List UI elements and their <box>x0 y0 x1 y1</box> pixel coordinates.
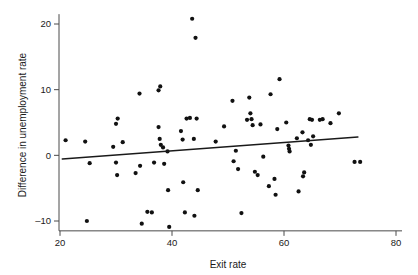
data-point <box>295 136 299 140</box>
data-point <box>183 210 187 214</box>
x-tick-label: 40 <box>167 237 178 248</box>
data-point <box>328 121 332 125</box>
data-point <box>138 164 142 168</box>
data-point <box>111 145 115 149</box>
data-point <box>190 17 194 21</box>
data-point <box>321 117 325 121</box>
data-point <box>301 174 305 178</box>
data-point <box>193 36 197 40</box>
data-point <box>284 120 288 124</box>
data-point <box>310 118 314 122</box>
y-tick-label: 10 <box>40 84 51 95</box>
plot-canvas: 20100–10 20406080 Exit rate Difference i… <box>0 0 418 275</box>
data-point <box>114 122 118 126</box>
data-point <box>236 167 240 171</box>
data-point <box>192 137 196 141</box>
data-point <box>239 211 243 215</box>
data-point <box>251 123 255 127</box>
data-point <box>156 88 160 92</box>
y-tick-label-group: 20100–10 <box>35 18 51 226</box>
y-tick-label: –10 <box>35 215 51 226</box>
data-point <box>267 184 271 188</box>
data-point <box>358 160 362 164</box>
regression-fit-line <box>62 137 358 159</box>
data-point <box>274 193 278 197</box>
data-point <box>253 170 257 174</box>
data-point <box>137 92 141 96</box>
data-point <box>309 143 313 147</box>
data-point <box>140 222 144 226</box>
data-point <box>288 149 292 153</box>
data-point <box>121 140 125 144</box>
data-point <box>88 161 92 165</box>
data-point <box>158 137 162 141</box>
data-point <box>152 160 156 164</box>
data-point <box>245 118 249 122</box>
data-point <box>302 170 306 174</box>
data-point <box>222 124 226 128</box>
data-point <box>195 116 199 120</box>
x-tick-label-group: 20406080 <box>55 237 402 248</box>
x-axis-title: Exit rate <box>210 259 247 270</box>
data-point <box>158 84 162 88</box>
tick-mark-group <box>54 24 396 236</box>
data-point <box>162 162 166 166</box>
y-axis-title: Difference in unemployment rate <box>17 52 28 197</box>
data-point <box>181 137 185 141</box>
y-tick-label: 20 <box>40 18 51 29</box>
data-point <box>296 189 300 193</box>
data-point <box>311 134 315 138</box>
data-point <box>214 139 218 143</box>
data-point <box>85 219 89 223</box>
data-point <box>256 173 260 177</box>
data-point <box>230 99 234 103</box>
data-point <box>261 155 265 159</box>
data-point <box>156 125 160 129</box>
data-point <box>179 129 183 133</box>
data-point <box>161 145 165 149</box>
data-point <box>115 173 119 177</box>
data-point <box>352 160 356 164</box>
data-point <box>166 188 170 192</box>
data-point <box>272 177 276 181</box>
data-point <box>188 116 192 120</box>
y-tick-label: 0 <box>46 150 51 161</box>
x-tick-label: 80 <box>391 237 402 248</box>
data-point <box>232 159 236 163</box>
data-point <box>167 225 171 229</box>
x-tick-label: 60 <box>279 237 290 248</box>
data-point <box>192 214 196 218</box>
data-point <box>234 149 238 153</box>
data-point <box>116 116 120 120</box>
data-point <box>337 111 341 115</box>
data-point-group <box>64 17 363 229</box>
data-point <box>145 210 149 214</box>
data-point <box>277 77 281 81</box>
data-point <box>275 127 279 131</box>
data-point <box>181 180 185 184</box>
data-point <box>268 92 272 96</box>
data-point <box>300 130 304 134</box>
data-point <box>248 111 252 115</box>
data-point <box>258 122 262 126</box>
data-point <box>114 160 118 164</box>
data-point <box>249 117 253 121</box>
data-point <box>83 139 87 143</box>
data-point <box>150 210 154 214</box>
data-point <box>196 188 200 192</box>
data-point <box>247 95 251 99</box>
data-point <box>64 138 68 142</box>
scatter-plot-figure: 20100–10 20406080 Exit rate Difference i… <box>0 0 418 275</box>
data-point <box>134 171 138 175</box>
x-tick-label: 20 <box>55 237 66 248</box>
